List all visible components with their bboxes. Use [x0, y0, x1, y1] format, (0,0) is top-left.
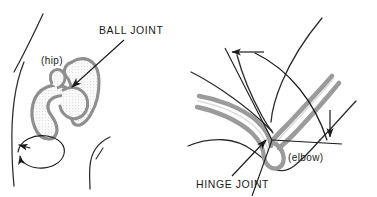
- hinge-joint-label: HINGE JOINT: [196, 178, 269, 190]
- body-outline-crease: [96, 148, 103, 159]
- figure-canvas: [0, 0, 377, 197]
- ulna-bone: [197, 96, 284, 169]
- ball-joint-panel: [12, 14, 124, 189]
- rotation-motion-indicator: [18, 136, 64, 168]
- hip-label: (hip): [41, 55, 63, 66]
- arm-outline-upper-outer: [271, 18, 322, 122]
- body-outline-flank: [12, 62, 24, 186]
- anatomy-figure: BALL JOINT HINGE JOINT (hip) (elbow): [0, 0, 377, 197]
- joint-axis-lines: [225, 48, 342, 196]
- ball-joint-label: BALL JOINT: [99, 24, 164, 36]
- humerus-bone: [273, 76, 339, 148]
- elbow-label: (elbow): [288, 152, 324, 163]
- body-outline-thigh: [90, 137, 110, 189]
- body-outline-torso: [14, 14, 43, 72]
- hinge-joint-panel: [188, 18, 356, 196]
